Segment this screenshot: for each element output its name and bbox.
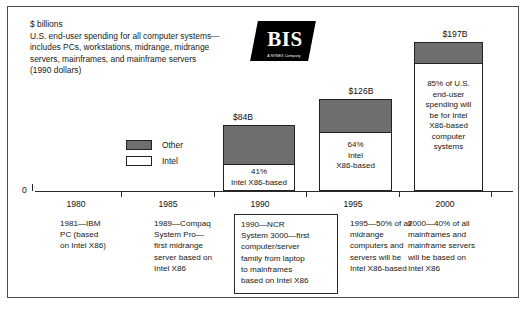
note-2000: 2000—40% of all mainframes and mainframe…: [408, 218, 508, 274]
axis-tick-3: [306, 191, 307, 197]
legend-label-other: Other: [162, 140, 183, 150]
note-1981: 1981—IBM PC (based on Intel X86): [60, 218, 142, 252]
bar-2000[interactable]: 85% of U.S. end-user spending will be fo…: [414, 42, 483, 191]
axis-zero-label: 0: [22, 185, 27, 195]
x-axis-label-1980: 1980: [46, 199, 106, 209]
axis-tick-2: [214, 191, 215, 197]
x-axis-label-1995: 1995: [323, 199, 383, 209]
bar-intel-label-1995: 64% Intel X86-based: [320, 140, 391, 172]
legend-item-other[interactable]: Other: [126, 138, 183, 152]
x-axis-label-1990: 1990: [230, 199, 290, 209]
bar-1990[interactable]: 41% Intel X86-based: [223, 125, 295, 191]
bar-other-segment-2000: [415, 43, 482, 64]
chart-frame: $ billions U.S. end-user spending for al…: [7, 6, 519, 298]
bar-total-label-1995: $126B: [311, 86, 411, 96]
bar-total-label-2000: $197B: [405, 29, 505, 39]
axis-tick-1: [121, 191, 122, 197]
x-axis-line: [35, 191, 513, 192]
legend-swatch-intel-icon: [126, 156, 152, 166]
plot-area: $84B 41% Intel X86-based $126B 64% Intel…: [8, 7, 520, 299]
legend-item-intel[interactable]: Intel: [126, 154, 183, 168]
legend-swatch-other-icon: [126, 140, 152, 150]
legend: Other Intel: [126, 138, 183, 170]
bar-intel-label-1990: 41% Intel X86-based: [224, 167, 294, 188]
x-axis-label-2000: 2000: [415, 199, 475, 209]
note-1989: 1989—Compaq System Pro— first midrange s…: [154, 218, 244, 274]
bar-1995[interactable]: 64% Intel X86-based: [319, 99, 392, 191]
legend-label-intel: Intel: [162, 156, 178, 166]
bar-total-label-1990: $84B: [193, 112, 293, 122]
bar-other-segment-1990: [224, 126, 294, 165]
x-axis-label-1985: 1985: [138, 199, 198, 209]
note-1990: 1990—NCR System 3000—first computer/serv…: [234, 214, 338, 294]
axis-tick-start: [32, 184, 33, 191]
axis-tick-4: [399, 191, 400, 197]
bar-intel-label-2000: 85% of U.S. end-user spending will be fo…: [415, 79, 482, 153]
axis-tick-5: [491, 191, 492, 197]
chart-page: $ billions U.S. end-user spending for al…: [0, 0, 527, 313]
bar-other-segment-1995: [320, 100, 391, 133]
